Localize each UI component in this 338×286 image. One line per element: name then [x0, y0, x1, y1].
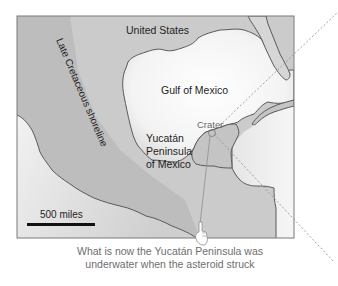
crater-label: Crater	[197, 119, 223, 130]
peninsula-label-line3: of Mexico	[146, 158, 191, 170]
map-panel: Late Cretaceous shoreline United States …	[17, 16, 294, 238]
figure-caption: What is now the Yucatán Peninsula was un…	[40, 245, 300, 271]
water-label-gulf-of-mexico: Gulf of Mexico	[161, 84, 228, 96]
peninsula-label-line1: Yucatán	[146, 132, 184, 144]
chicxulub-map-figure: Late Cretaceous shoreline United States …	[0, 0, 338, 286]
caption-line-1: What is now the Yucatán Peninsula was	[40, 245, 300, 258]
scale-bar-label: 500 miles	[40, 209, 83, 220]
scale-bar	[27, 223, 95, 226]
country-label-united-states: United States	[126, 24, 189, 36]
peninsula-label-line2: Peninsula	[146, 145, 192, 157]
caption-line-2: underwater when the asteroid struck	[40, 258, 300, 271]
